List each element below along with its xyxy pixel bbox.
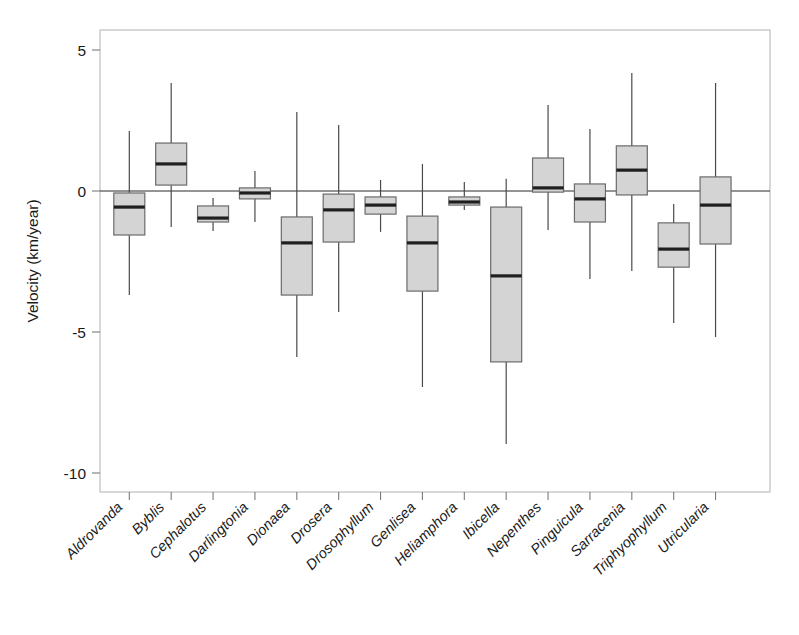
box-rect xyxy=(281,217,312,295)
box-plot-figure: 50-5-10 AldrovandaByblisCephalotusDarlin… xyxy=(0,0,799,635)
box-rect xyxy=(491,207,522,362)
y-tick-label: -10 xyxy=(64,465,87,482)
box-rect xyxy=(323,194,354,242)
y-axis-title: Velocity (km/year) xyxy=(24,199,41,322)
box-rect xyxy=(574,184,605,222)
box-rect xyxy=(658,223,689,267)
y-tick-label: 5 xyxy=(77,42,86,59)
y-tick-label: 0 xyxy=(77,183,86,200)
box-rect xyxy=(114,193,145,235)
y-tick-label: -5 xyxy=(72,324,86,341)
box-rect xyxy=(700,177,731,244)
box-rect xyxy=(407,216,438,291)
